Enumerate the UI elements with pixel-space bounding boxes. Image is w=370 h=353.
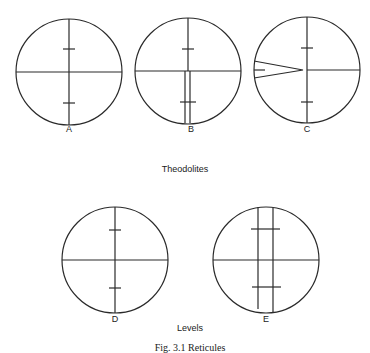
label-a: A	[59, 124, 79, 134]
label-b: B	[181, 124, 201, 134]
label-e: E	[256, 314, 276, 324]
reticule-a	[16, 19, 122, 125]
label-d: D	[105, 314, 125, 324]
reticule-d	[62, 207, 168, 313]
reticule-e	[213, 207, 319, 313]
caption-theodolites: Theodolites	[125, 164, 245, 174]
reticule-b	[135, 18, 241, 124]
figure-caption: Fig. 3.1 Reticules	[90, 342, 290, 353]
caption-levels: Levels	[130, 323, 250, 333]
reticule-c	[254, 17, 360, 123]
label-c: C	[297, 124, 317, 134]
